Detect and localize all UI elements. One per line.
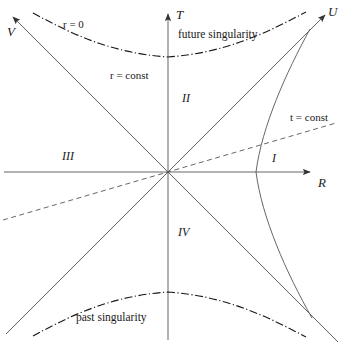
past-singularity-curve — [33, 292, 306, 337]
axis-label-U: U — [328, 5, 337, 18]
kruskal-szekeres-figure: V U T R r = 0 future singularity r = con… — [0, 0, 344, 345]
annotation-future-singularity: future singularity — [178, 29, 258, 41]
axis-label-R: R — [318, 176, 326, 189]
region-label-I: I — [272, 152, 276, 164]
horizon-diagonal-v — [13, 17, 338, 342]
region-label-II: II — [182, 92, 190, 104]
axis-label-V: V — [7, 25, 15, 38]
annotation-t-const: t = const — [290, 112, 328, 123]
t-const-line — [3, 123, 336, 220]
region-label-IV: IV — [178, 226, 189, 238]
axis-label-T: T — [176, 8, 183, 21]
annotation-r-zero: r = 0 — [63, 19, 84, 30]
diagram-canvas — [0, 0, 344, 345]
annotation-r-const: r = const — [110, 70, 149, 81]
annotation-past-singularity: past singularity — [76, 312, 147, 324]
region-label-III: III — [62, 150, 74, 162]
r-const-hyperbola — [256, 29, 312, 318]
horizon-diagonal-u — [6, 15, 325, 334]
